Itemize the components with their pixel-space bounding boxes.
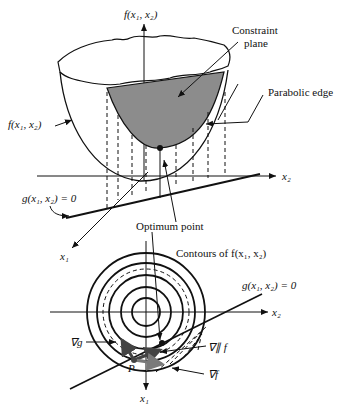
x1-axis	[72, 172, 148, 248]
parabolic-edge-label: Parabolic edge	[268, 86, 333, 98]
constraint-plane-label-2: plane	[244, 37, 268, 49]
surface-label: f(x₁, x₂)	[8, 118, 41, 130]
optimization-figure: f(x₁, x₂) Constraint plane Parabolic edg…	[0, 0, 346, 416]
constraint-plane-label-1: Constraint	[232, 24, 278, 36]
x1-axis-label-bottom: x₁	[140, 392, 149, 404]
constraint-eq-label-bottom: g(x₁, x₂) = 0	[242, 279, 296, 291]
f-axis-label: f(x₁, x₂)	[124, 8, 157, 20]
grad-f-label: ∇f	[208, 368, 218, 380]
grad-f-arrow	[134, 360, 162, 364]
x2-axis-label-bottom: x₂	[272, 306, 281, 318]
grad-g-label: ∇g	[70, 336, 83, 348]
constraint-eq-label-top: g(x₁, x₂) = 0	[22, 192, 76, 204]
contours-label: Contours of f(x₁, x₂)	[176, 247, 266, 259]
x1-axis-label-top: x₁	[60, 250, 69, 262]
figure-graphics	[0, 0, 346, 416]
point-p-label: P	[128, 362, 135, 374]
x2-axis-label-top: x₂	[282, 170, 291, 182]
constraint-line-top	[66, 174, 260, 218]
grad-parallel-f-label: ∇∥ f	[208, 341, 227, 353]
optimum-point-label: Optimum point	[136, 220, 204, 232]
